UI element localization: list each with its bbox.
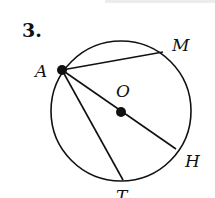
label-h: H [184,151,201,171]
label-m: M [171,35,190,55]
chord-am [62,52,163,70]
label-a: A [33,61,47,81]
center-o-dot [116,107,126,117]
label-o: O [116,81,130,101]
label-t: T [116,186,129,198]
problem-number: 3. [22,19,42,41]
chord-at [62,70,123,180]
circle-diagram: 3. A M O H T [0,0,215,198]
point-a-dot [57,65,67,75]
